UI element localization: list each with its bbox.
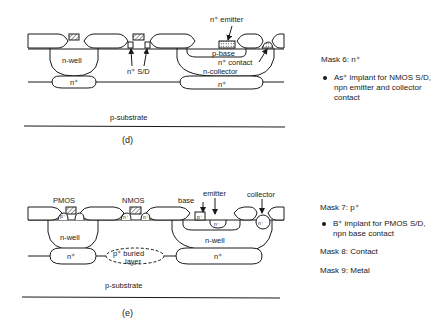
label-n-plus: n⁺ (70, 78, 78, 87)
panel-d (24, 26, 285, 127)
bullet-icon (323, 76, 327, 80)
field-oxide (150, 34, 195, 48)
label-n-plus-right: n⁺ (218, 80, 226, 89)
field-oxide (28, 207, 62, 220)
label-n-plus-contact: n⁺ contact (218, 58, 253, 67)
mask-6-bullet: As⁺ implant for NMOS S/D, npn emitter an… (321, 73, 439, 103)
caption-e: (e) (122, 308, 133, 318)
label-nmos-n-plus: n⁺ (123, 214, 129, 220)
substrate-bottom-line (24, 126, 285, 127)
label-base-p-plus: p⁺ (197, 214, 203, 220)
label-n-plus-left: n⁺ (67, 252, 75, 261)
n-plus-emitter (219, 41, 235, 48)
field-oxide (84, 34, 128, 48)
cmos-bipolar-process-diagram: n-well n⁺ n⁺ S/D n⁺ emitter p-base n⁺ co… (0, 0, 441, 336)
mask-8-label: Mask 8: Contact (320, 247, 438, 257)
field-oxide (146, 207, 190, 220)
field-oxide (272, 34, 284, 48)
label-nmos: NMOS (122, 196, 145, 205)
field-oxide (234, 207, 257, 220)
nmos-gate (133, 34, 144, 40)
p-base (183, 220, 240, 230)
n-plus-contact (262, 42, 273, 48)
label-p-substrate: p-substrate (110, 113, 148, 122)
nmos-gate (130, 207, 141, 214)
label-collector-n-plus: n⁺ (258, 220, 264, 226)
mask-6-notes: Mask 6: n⁺ As⁺ implant for NMOS S/D, npn… (321, 55, 439, 103)
mask-6-bullet-text: As⁺ implant for NMOS S/D, npn emitter an… (334, 73, 431, 102)
pmos-gate (69, 34, 79, 40)
mask-7-9-notes: Mask 7: p⁺ B⁺ implant for PMOS S/D, npn … (320, 203, 438, 276)
sd-arrow (131, 49, 132, 66)
label-nmos-n-plus: n⁺ (143, 214, 149, 220)
label-n-well: n-well (62, 56, 82, 65)
label-n-plus-sd: n⁺ S/D (127, 67, 150, 76)
field-oxide (28, 34, 68, 48)
mask-7-bullet-text: B⁺ implant for PMOS S/D, npn base contac… (333, 219, 425, 238)
label-pmos-p-plus: p⁺ (60, 213, 66, 219)
label-pmos: PMOS (53, 196, 75, 205)
contact-arrow (259, 49, 267, 62)
caption-d: (d) (122, 135, 133, 145)
pmos-gate (66, 207, 76, 214)
nmos-source (128, 42, 133, 48)
mask-6-title: Mask 6: n⁺ (321, 55, 439, 65)
field-oxide (80, 207, 124, 220)
label-p-base: p-base (212, 49, 235, 58)
label-n-well-right: n-well (205, 236, 225, 245)
pmos-drain (75, 213, 84, 220)
field-oxide (237, 34, 263, 48)
label-buried-layer: layer (125, 257, 142, 266)
label-p-substrate: p-substrate (105, 281, 143, 290)
label-collector: collector (247, 190, 275, 199)
label-n-plus-right: n⁺ (214, 252, 222, 261)
emitter-arrow (228, 26, 232, 40)
label-n-well-left: n-well (60, 233, 80, 242)
bullet-icon (322, 222, 326, 226)
mask-7-title: Mask 7: p⁺ (320, 203, 438, 213)
label-base: base (178, 196, 194, 205)
mask-7-bullet: B⁺ implant for PMOS S/D, npn base contac… (320, 219, 438, 239)
label-emitter-n-plus: n⁺ (214, 221, 220, 227)
label-n-collector: n-collector (203, 67, 238, 76)
label-n-plus-emitter: n⁺ emitter (210, 15, 244, 24)
nmos-drain (145, 42, 150, 48)
field-oxide (268, 207, 284, 220)
mask-9-label: Mask 9: Metal (320, 266, 438, 276)
sd-arrow (144, 49, 147, 66)
label-emitter: emitter (203, 189, 226, 198)
substrate-bottom-line (22, 297, 280, 298)
